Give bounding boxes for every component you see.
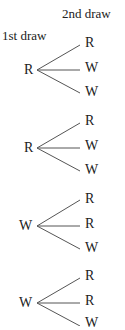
root-node-2: R	[24, 141, 33, 155]
leaf-node: W	[85, 316, 98, 330]
leaf-node: W	[85, 61, 98, 75]
leaf-node: R	[85, 114, 94, 128]
root-node-1: R	[24, 63, 33, 77]
leaf-node: R	[85, 192, 94, 206]
leaf-node: W	[85, 241, 98, 255]
leaf-node: R	[85, 36, 94, 50]
leaf-node: W	[85, 163, 98, 177]
leaf-node: W	[85, 85, 98, 99]
root-node-3: W	[19, 219, 32, 233]
root-node-4: W	[19, 296, 32, 310]
leaf-node: R	[85, 217, 94, 231]
leaf-node: R	[85, 294, 94, 308]
leaf-node: W	[85, 139, 98, 153]
leaf-node: R	[85, 269, 94, 283]
